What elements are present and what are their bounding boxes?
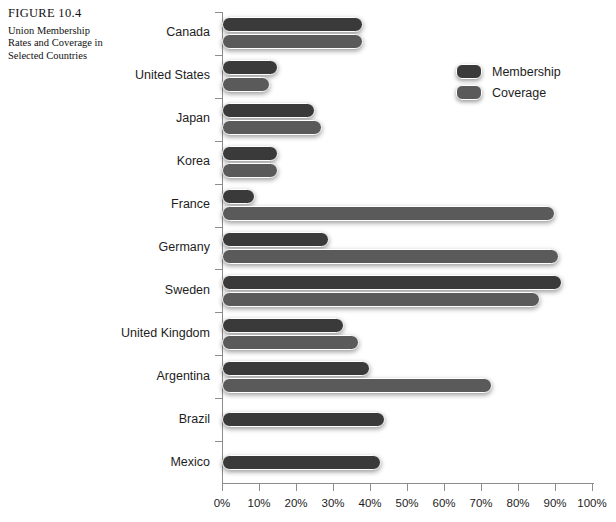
bar-membership bbox=[222, 146, 278, 161]
bar-membership bbox=[222, 232, 329, 247]
category-label: United Kingdom bbox=[121, 326, 210, 340]
category-label: France bbox=[171, 197, 210, 211]
x-axis-tick bbox=[407, 484, 408, 491]
bar-group: Canada bbox=[222, 12, 592, 55]
x-axis-tick bbox=[481, 484, 482, 491]
bar-membership bbox=[222, 361, 370, 376]
bar-coverage bbox=[222, 249, 559, 264]
bar-membership bbox=[222, 103, 315, 118]
x-axis-tick bbox=[296, 484, 297, 491]
bar-membership bbox=[222, 60, 278, 75]
bar-group: Germany bbox=[222, 227, 592, 270]
y-axis-tick bbox=[215, 184, 222, 185]
figure-page: FIGURE 10.4 Union Membership Rates and C… bbox=[0, 0, 616, 522]
x-axis-label: 80% bbox=[506, 497, 529, 509]
x-axis-tick bbox=[370, 484, 371, 491]
bar-membership bbox=[222, 17, 363, 32]
legend-swatch-membership bbox=[456, 64, 482, 79]
category-label: United States bbox=[135, 68, 210, 82]
category-label: Germany bbox=[159, 240, 210, 254]
category-label: Mexico bbox=[170, 455, 210, 469]
y-axis-tick bbox=[215, 12, 222, 13]
y-axis-tick bbox=[215, 269, 222, 270]
bar-group: France bbox=[222, 184, 592, 227]
bar-membership bbox=[222, 455, 381, 470]
category-label: Japan bbox=[176, 111, 210, 125]
category-label: Argentina bbox=[156, 369, 210, 383]
category-label: Sweden bbox=[165, 283, 210, 297]
y-axis-tick bbox=[215, 55, 222, 56]
bar-membership bbox=[222, 275, 562, 290]
bar-coverage bbox=[222, 77, 270, 92]
y-axis-tick bbox=[215, 141, 222, 142]
figure-number: FIGURE 10.4 bbox=[8, 6, 112, 21]
x-axis-label: 0% bbox=[214, 497, 231, 509]
bar-coverage bbox=[222, 120, 322, 135]
x-axis-tick bbox=[444, 484, 445, 491]
y-axis-tick bbox=[215, 398, 222, 399]
bar-group: Brazil bbox=[222, 398, 592, 441]
x-axis-tick bbox=[592, 484, 593, 491]
x-axis-tick bbox=[518, 484, 519, 491]
x-axis-label: 60% bbox=[432, 497, 455, 509]
y-axis-tick bbox=[215, 312, 222, 313]
bar-membership bbox=[222, 189, 255, 204]
x-axis-label: 100% bbox=[577, 497, 606, 509]
category-label: Brazil bbox=[179, 412, 210, 426]
legend-item-membership: Membership bbox=[456, 62, 561, 81]
bar-group: Argentina bbox=[222, 355, 592, 398]
bar-group: Japan bbox=[222, 98, 592, 141]
bar-membership bbox=[222, 412, 385, 427]
x-axis-label: 30% bbox=[321, 497, 344, 509]
category-label: Korea bbox=[177, 154, 210, 168]
legend-label: Coverage bbox=[492, 86, 546, 100]
y-axis-tick bbox=[215, 98, 222, 99]
bar-coverage bbox=[222, 206, 555, 221]
x-axis-label: 90% bbox=[543, 497, 566, 509]
bar-coverage bbox=[222, 378, 492, 393]
bar-group: Sweden bbox=[222, 269, 592, 312]
legend-swatch-coverage bbox=[456, 85, 482, 100]
x-axis-label: 20% bbox=[284, 497, 307, 509]
x-axis-label: 50% bbox=[395, 497, 418, 509]
y-axis-tick bbox=[215, 227, 222, 228]
y-axis-tick bbox=[215, 355, 222, 356]
figure-title: Union Membership Rates and Coverage in S… bbox=[8, 25, 112, 62]
y-axis-tick bbox=[215, 441, 222, 442]
bar-coverage bbox=[222, 163, 278, 178]
x-axis-tick bbox=[333, 484, 334, 491]
figure-caption: FIGURE 10.4 Union Membership Rates and C… bbox=[8, 6, 112, 62]
bar-group: Korea bbox=[222, 141, 592, 184]
category-label: Canada bbox=[166, 25, 210, 39]
legend-label: Membership bbox=[492, 65, 561, 79]
x-axis-label: 10% bbox=[247, 497, 270, 509]
x-axis-label: 70% bbox=[469, 497, 492, 509]
x-axis-tick bbox=[259, 484, 260, 491]
x-axis-tick bbox=[555, 484, 556, 491]
x-axis-tick bbox=[222, 484, 223, 491]
bar-membership bbox=[222, 318, 344, 333]
chart-legend: MembershipCoverage bbox=[456, 62, 561, 104]
x-axis-label: 40% bbox=[358, 497, 381, 509]
bar-coverage bbox=[222, 34, 363, 49]
legend-item-coverage: Coverage bbox=[456, 83, 561, 102]
bar-coverage bbox=[222, 335, 359, 350]
bar-group: Mexico bbox=[222, 441, 592, 484]
bar-coverage bbox=[222, 292, 540, 307]
bar-group: United Kingdom bbox=[222, 312, 592, 355]
